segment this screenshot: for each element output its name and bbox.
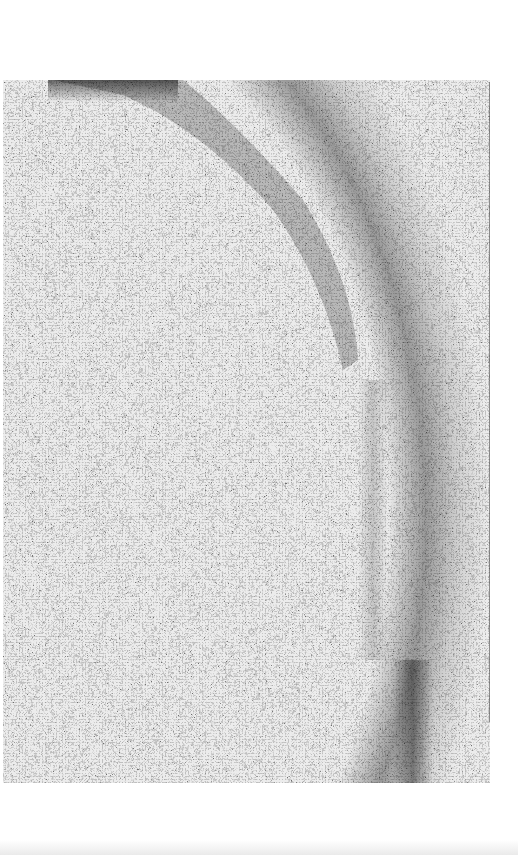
texture-right-edge [489,82,490,722]
image-canvas [0,0,518,855]
bottom-fade [0,840,518,855]
noise-texture [3,80,490,783]
texture-svg [3,80,490,783]
